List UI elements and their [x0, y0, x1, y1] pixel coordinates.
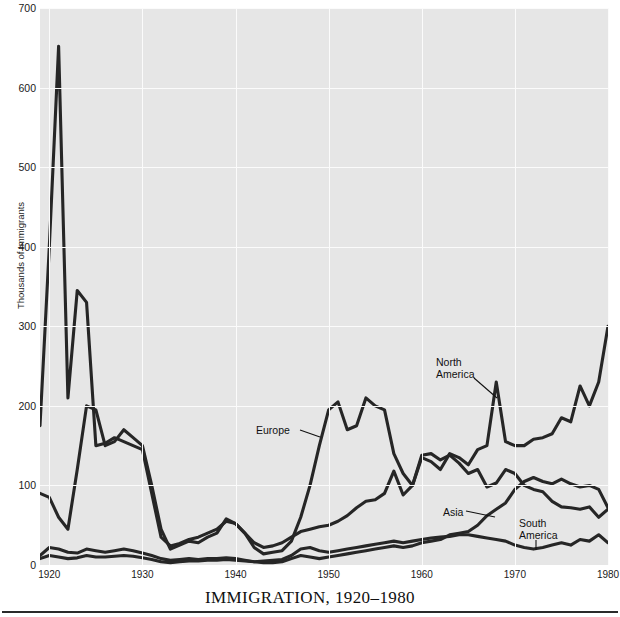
gridline-vertical [142, 8, 143, 565]
x-axis-tick-label: 1970 [504, 569, 526, 580]
annotation-label-south-america: South America [519, 518, 558, 541]
gridline-horizontal [40, 326, 608, 327]
y-axis-tick-label: 200 [4, 401, 36, 412]
plot-svg [40, 8, 608, 565]
y-axis-tick-label: 500 [4, 162, 36, 173]
annotation-label-asia: Asia [443, 507, 463, 519]
x-axis-tick-label: 1920 [38, 569, 60, 580]
gridline-vertical [329, 8, 330, 565]
x-axis-tick-label: 1940 [224, 569, 246, 580]
x-axis-tick-label: 1960 [411, 569, 433, 580]
gridline-horizontal [40, 88, 608, 89]
gridline-horizontal [40, 247, 608, 248]
immigration-line-chart: Thousands of Immigrants 0100200300400500… [0, 0, 620, 617]
gridline-horizontal [40, 167, 608, 168]
gridline-horizontal [40, 406, 608, 407]
y-axis-tick-label: 600 [4, 82, 36, 93]
y-axis-tick-label: 0 [4, 560, 36, 571]
gridline-vertical [515, 8, 516, 565]
y-axis-tick-label: 100 [4, 480, 36, 491]
x-axis-tick-label: 1980 [597, 569, 619, 580]
y-axis-tick-label: 400 [4, 241, 36, 252]
series-line-europe [40, 46, 608, 554]
gridline-horizontal [40, 8, 608, 9]
gridline-horizontal [40, 485, 608, 486]
caption-divider [2, 611, 618, 613]
chart-caption: IMMIGRATION, 1920–1980 [0, 588, 620, 608]
annotation-label-europe: Europe [256, 425, 290, 437]
gridline-vertical [236, 8, 237, 565]
series-line-north-america [40, 326, 608, 549]
x-axis-tick-label: 1950 [318, 569, 340, 580]
y-axis-tick-label: 700 [4, 3, 36, 14]
y-axis-tick-label: 300 [4, 321, 36, 332]
x-axis-tick-label: 1930 [131, 569, 153, 580]
gridline-vertical [422, 8, 423, 565]
plot-area [40, 8, 608, 565]
annotation-label-north-america: North America [436, 357, 475, 380]
gridline-vertical [608, 8, 609, 565]
gridline-vertical [49, 8, 50, 565]
